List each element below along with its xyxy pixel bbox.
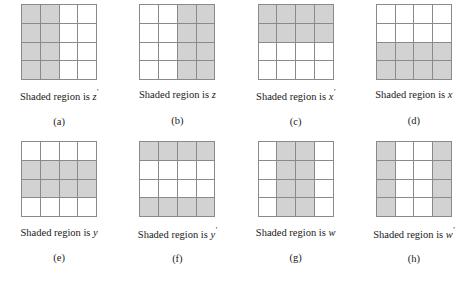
grid-cell (22, 142, 41, 161)
grid-cell (197, 142, 216, 161)
grid-cell (22, 5, 41, 24)
caption-variable: w (446, 229, 453, 240)
grid-cell (197, 180, 216, 199)
grid-cell (140, 180, 159, 199)
grid-cell (277, 180, 296, 199)
grid-cell (296, 198, 315, 217)
grid-cell (197, 5, 216, 24)
grid-cell (41, 5, 60, 24)
grid-cell (296, 43, 315, 62)
grid-cell (296, 180, 315, 199)
caption-prefix: Shaded region is (139, 89, 209, 100)
grid-cell (277, 5, 296, 24)
grid-cell (296, 161, 315, 180)
panel-sublabel-f: (f) (172, 253, 183, 264)
grid-cell (277, 142, 296, 161)
grid-cell (178, 5, 197, 24)
grid-cell (22, 61, 41, 80)
grid-a (21, 4, 97, 80)
grid-cell (22, 180, 41, 199)
grid-cell (159, 43, 178, 62)
grid-cell (178, 161, 197, 180)
panel-sublabel-b: (b) (171, 115, 183, 126)
grid-cell (159, 180, 178, 199)
grid-cell (60, 43, 79, 62)
grid-cell (60, 180, 79, 199)
grid-cell (433, 161, 452, 180)
grid-cell (259, 142, 278, 161)
grid-c (258, 4, 334, 80)
figure-panel-g: Shaded region is w(g) (237, 141, 355, 264)
grid-cell (60, 161, 79, 180)
grid-cell (140, 198, 159, 217)
grid-cell (178, 24, 197, 43)
caption-prime-mark: ′ (333, 88, 335, 97)
grid-cell (414, 161, 433, 180)
grid-cell (60, 61, 79, 80)
caption-prefix: Shaded region is (20, 227, 90, 238)
grid-cell (60, 5, 79, 24)
grid-cell (22, 161, 41, 180)
panel-sublabel-a: (a) (53, 116, 65, 127)
karnaugh-map-figure: Shaded region is z′(a)Shaded region is z… (0, 0, 473, 297)
grid-cell (78, 61, 97, 80)
grid-cell (277, 24, 296, 43)
grid-cell (159, 142, 178, 161)
grid-cell (41, 142, 60, 161)
grid-cell (178, 198, 197, 217)
grid-cell (178, 142, 197, 161)
figure-panel-a: Shaded region is z′(a) (0, 4, 118, 127)
caption-prefix: Shaded region is (375, 89, 445, 100)
grid-cell (41, 61, 60, 80)
grid-cell (140, 161, 159, 180)
grid-cell (396, 5, 415, 24)
figure-row-top: Shaded region is z′(a)Shaded region is z… (0, 0, 473, 127)
panel-caption-e: Shaded region is y (20, 227, 97, 239)
grid-cell (259, 198, 278, 217)
grid-cell (315, 198, 334, 217)
grid-cell (140, 5, 159, 24)
grid-cell (396, 24, 415, 43)
grid-g (258, 141, 334, 217)
grid-cell (433, 142, 452, 161)
grid-cell (377, 161, 396, 180)
grid-cell (159, 61, 178, 80)
caption-variable: z (212, 89, 216, 100)
grid-cell (178, 43, 197, 62)
caption-prime-mark: ′ (97, 88, 99, 97)
grid-cell (396, 61, 415, 80)
grid-cell (78, 142, 97, 161)
panel-caption-f: Shaded region is y′ (138, 227, 217, 240)
caption-variable: w (328, 227, 335, 238)
panel-sublabel-e: (e) (53, 252, 65, 263)
grid-cell (78, 5, 97, 24)
grid-cell (41, 198, 60, 217)
grid-cell (259, 43, 278, 62)
panel-caption-c: Shaded region is x′ (256, 89, 335, 102)
caption-prefix: Shaded region is (373, 229, 443, 240)
figure-panel-c: Shaded region is x′(c) (237, 4, 355, 127)
grid-cell (315, 24, 334, 43)
grid-cell (315, 142, 334, 161)
grid-cell (377, 24, 396, 43)
grid-cell (433, 24, 452, 43)
grid-cell (315, 180, 334, 199)
grid-cell (296, 24, 315, 43)
grid-cell (259, 24, 278, 43)
grid-cell (396, 198, 415, 217)
panel-caption-h: Shaded region is w′ (373, 227, 454, 240)
grid-cell (377, 180, 396, 199)
grid-cell (377, 61, 396, 80)
grid-cell (377, 198, 396, 217)
figure-panel-b: Shaded region is z(b) (118, 4, 236, 127)
caption-prefix: Shaded region is (20, 91, 90, 102)
grid-cell (433, 180, 452, 199)
grid-cell (197, 161, 216, 180)
grid-cell (78, 198, 97, 217)
grid-cell (277, 61, 296, 80)
grid-cell (396, 180, 415, 199)
caption-variable: x (448, 89, 453, 100)
grid-cell (396, 161, 415, 180)
caption-prefix: Shaded region is (256, 227, 326, 238)
grid-cell (178, 61, 197, 80)
